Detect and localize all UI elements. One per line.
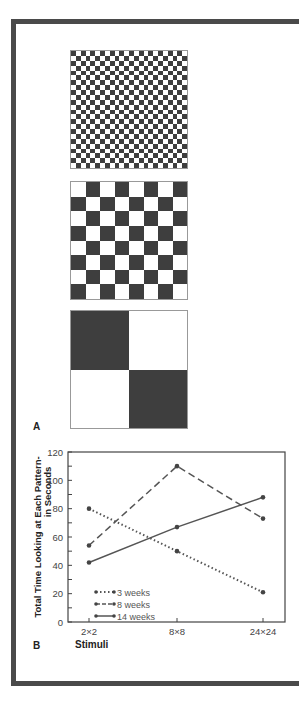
- legend-marker: [112, 590, 116, 594]
- legend-marker: [94, 590, 98, 594]
- data-point: [175, 549, 180, 554]
- y-axis-label-line2: in Seconds: [42, 467, 53, 518]
- data-point: [261, 590, 266, 595]
- chart-legend: 3 weeks8 weeks14 weeks: [94, 588, 155, 622]
- x-tick-label: 8×8: [169, 626, 185, 637]
- data-point: [261, 495, 266, 500]
- x-tick-label: 24×24: [250, 626, 277, 637]
- y-tick-label: 0: [58, 617, 63, 628]
- data-point: [87, 560, 92, 565]
- data-point: [175, 525, 180, 530]
- x-axis-label: Stimuli: [75, 639, 109, 650]
- x-tick-label: 2×2: [81, 626, 97, 637]
- data-point: [261, 516, 266, 521]
- data-point: [175, 464, 180, 469]
- y-tick-label: 60: [52, 532, 63, 543]
- legend-label: 8 weeks: [117, 600, 151, 610]
- y-tick-label: 120: [47, 447, 63, 458]
- line-chart: 0204060801001202×28×824×24 3 weeks8 week…: [0, 0, 299, 708]
- chart-series: [87, 464, 266, 595]
- plot-frame: [68, 452, 285, 622]
- legend-marker: [112, 614, 116, 618]
- data-point: [87, 506, 92, 511]
- legend-label: 14 weeks: [117, 612, 156, 622]
- legend-marker: [112, 602, 116, 606]
- y-tick-label: 20: [52, 588, 63, 599]
- legend-marker: [94, 614, 98, 618]
- legend-marker: [94, 602, 98, 606]
- legend-label: 3 weeks: [117, 588, 151, 598]
- y-tick-label: 40: [52, 560, 63, 571]
- data-point: [87, 543, 92, 548]
- y-tick-label: 80: [52, 503, 63, 514]
